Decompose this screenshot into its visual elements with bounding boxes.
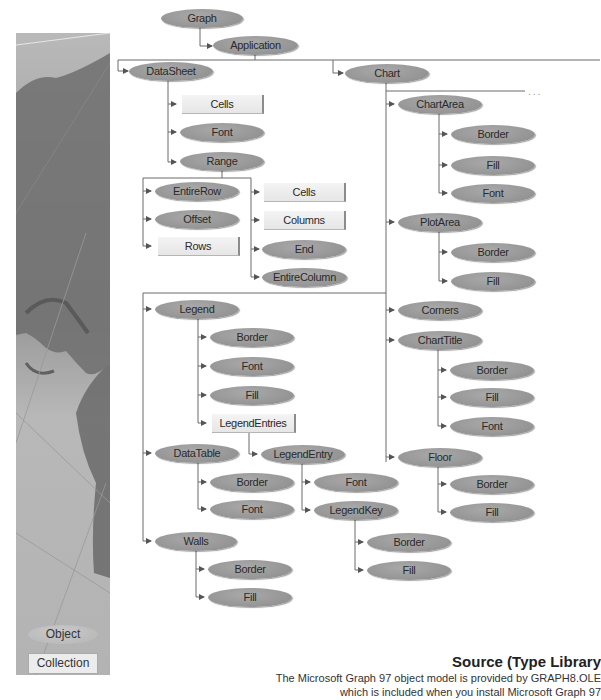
node-chartarea-font: Font (451, 184, 535, 203)
node-end: End (262, 240, 346, 259)
source-line-2: which is included when you install Micro… (340, 686, 601, 698)
continuation-ellipsis: ... (528, 86, 542, 97)
node-legend-font: Font (210, 357, 294, 376)
node-walls-border: Border (208, 560, 292, 579)
node-chart: Chart (345, 64, 429, 83)
source-title: Source (Type Library (452, 653, 601, 670)
node-legendkey-fill: Fill (367, 561, 451, 580)
node-offset: Offset (155, 210, 239, 229)
node-entirecolumn: EntireColumn (262, 268, 347, 287)
node-chartarea-border: Border (451, 125, 535, 144)
node-datasheet: DataSheet (129, 62, 213, 81)
node-graph: Graph (161, 9, 243, 28)
node-legendkey: LegendKey (314, 501, 398, 520)
node-walls: Walls (155, 532, 237, 551)
node-floor: Floor (398, 448, 482, 467)
node-walls-fill: Fill (208, 588, 292, 607)
node-chartarea: ChartArea (398, 95, 482, 114)
node-legendentry: LegendEntry (261, 445, 345, 464)
node-datatable-font: Font (210, 500, 294, 519)
node-legendentry-font: Font (314, 473, 398, 492)
node-plotarea-border: Border (451, 243, 535, 262)
node-plotarea: PlotArea (398, 213, 482, 232)
node-range-cells: Cells (264, 183, 346, 202)
node-charttitle-border: Border (450, 361, 534, 380)
node-corners: Corners (398, 301, 482, 320)
node-range: Range (180, 152, 264, 171)
node-datasheet-font: Font (180, 123, 264, 142)
node-chartarea-fill: Fill (451, 156, 535, 175)
node-application: Application (213, 36, 298, 55)
node-charttitle-fill: Fill (450, 388, 534, 407)
node-datatable-border: Border (210, 473, 294, 492)
node-entirerow: EntireRow (155, 182, 239, 201)
node-floor-border: Border (450, 475, 534, 494)
node-floor-fill: Fill (450, 503, 534, 522)
node-columns: Columns (264, 211, 346, 230)
node-legendkey-border: Border (367, 533, 451, 552)
key-object: Object (28, 625, 98, 644)
node-plotarea-fill: Fill (451, 272, 535, 291)
key-collection: Collection (28, 653, 98, 674)
node-charttitle-font: Font (450, 417, 534, 436)
node-rows: Rows (158, 237, 240, 256)
node-legend-border: Border (210, 328, 294, 347)
node-charttitle: ChartTitle (398, 331, 482, 350)
node-legendentries: LegendEntries (212, 414, 296, 433)
node-datasheet-cells: Cells (182, 95, 264, 114)
node-datatable: DataTable (155, 444, 239, 463)
source-line-1: The Microsoft Graph 97 object model is p… (276, 672, 601, 684)
connector-lines (0, 0, 601, 700)
node-legend-fill: Fill (210, 386, 294, 405)
node-legend: Legend (155, 300, 239, 319)
